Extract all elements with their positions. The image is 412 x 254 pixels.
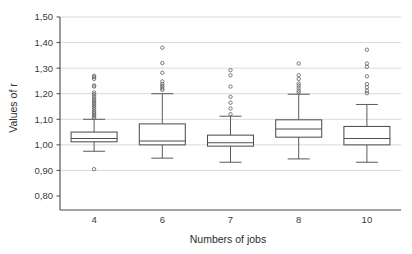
box-iqr xyxy=(344,126,390,144)
x-tick-label: 8 xyxy=(296,214,301,225)
box-iqr xyxy=(208,135,254,146)
y-tick-label: 1,40 xyxy=(35,37,54,48)
x-tick-label: 4 xyxy=(91,214,96,225)
y-axis-title: Values of r xyxy=(7,83,19,133)
y-tick-label: 1,50 xyxy=(35,11,54,22)
x-tick-label: 7 xyxy=(228,214,233,225)
boxplot-chart: 1,501,401,301,201,101,000,900,80 467810 … xyxy=(0,0,412,254)
y-tick-label: 1,00 xyxy=(35,139,54,150)
y-tick-label: 0,80 xyxy=(35,190,54,201)
y-tick-label: 1,20 xyxy=(35,88,54,99)
box-iqr xyxy=(139,124,185,145)
x-tick-label: 6 xyxy=(160,214,165,225)
y-tick-label: 1,10 xyxy=(35,114,54,125)
y-tick-label: 0,90 xyxy=(35,165,54,176)
x-axis-title: Numbers of jobs xyxy=(190,233,266,245)
x-tick-label: 10 xyxy=(362,214,373,225)
chart-canvas: 1,501,401,301,201,101,000,900,80 467810 … xyxy=(0,0,412,254)
y-tick-label: 1,30 xyxy=(35,63,54,74)
box-iqr xyxy=(71,132,117,142)
